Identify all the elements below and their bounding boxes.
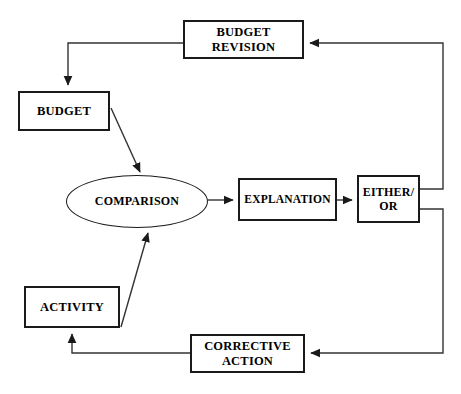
connector-activity-to-comparison bbox=[121, 233, 148, 327]
node-budget[interactable]: BUDGET bbox=[18, 91, 110, 131]
node-explanation-label: EXPLANATION bbox=[242, 193, 332, 207]
connector-budget-revision-to-budget bbox=[68, 43, 183, 85]
node-explanation[interactable]: EXPLANATION bbox=[238, 178, 337, 221]
connector-corrective-action-to-activity bbox=[72, 334, 190, 353]
connector-either-or-to-corrective-action bbox=[311, 209, 443, 353]
node-activity-label: ACTIVITY bbox=[38, 300, 106, 315]
node-either-or-label: EITHER/ OR bbox=[361, 185, 416, 213]
connector-either-or-to-budget-revision bbox=[310, 43, 443, 189]
node-either-or[interactable]: EITHER/ OR bbox=[357, 175, 420, 223]
flowchart-diagram: BUDGET REVISION BUDGET COMPARISON EXPLAN… bbox=[0, 0, 461, 394]
connector-budget-to-comparison bbox=[111, 108, 140, 172]
node-budget-revision[interactable]: BUDGET REVISION bbox=[183, 20, 304, 59]
node-activity[interactable]: ACTIVITY bbox=[24, 286, 120, 328]
node-comparison[interactable]: COMPARISON bbox=[66, 175, 208, 228]
node-corrective-action-label: CORRECTIVE ACTION bbox=[202, 339, 293, 369]
node-budget-revision-label: BUDGET REVISION bbox=[210, 25, 277, 55]
node-comparison-label: COMPARISON bbox=[93, 194, 181, 208]
node-corrective-action[interactable]: CORRECTIVE ACTION bbox=[190, 334, 305, 373]
node-budget-label: BUDGET bbox=[35, 104, 93, 119]
